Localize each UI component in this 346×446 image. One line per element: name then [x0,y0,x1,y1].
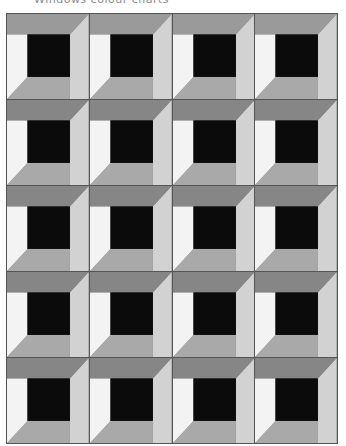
center-square [276,378,319,421]
colour-tile [90,14,172,99]
center-square [193,378,236,421]
colour-tile [7,186,89,271]
chart-title: Windows colour charts [34,0,169,6]
colour-tile [90,272,172,357]
center-square [193,120,236,162]
center-square [193,206,236,249]
center-square [193,34,236,77]
center-square [27,206,70,249]
colour-tile [90,358,172,443]
colour-tile [173,14,255,99]
center-square [276,206,319,249]
colour-tile [173,272,255,357]
center-square [110,378,153,421]
center-square [110,120,153,162]
colour-tile [90,186,172,271]
colour-tile [173,186,255,271]
center-square [276,34,319,77]
center-square [27,378,70,421]
colour-chart-grid [6,13,338,444]
center-square [110,292,153,335]
center-square [110,34,153,77]
center-square [276,120,319,162]
colour-tile [7,272,89,357]
colour-tile [255,272,337,357]
colour-tile [7,100,89,185]
colour-tile [255,100,337,185]
center-square [110,206,153,249]
center-square [193,292,236,335]
center-square [276,292,319,335]
center-square [27,34,70,77]
colour-tile [7,358,89,443]
colour-tile [90,100,172,185]
center-square [27,292,70,335]
colour-tile [255,358,337,443]
colour-tile [255,14,337,99]
colour-tile [255,186,337,271]
colour-tile [7,14,89,99]
colour-tile [173,100,255,185]
colour-tile [173,358,255,443]
center-square [27,120,70,162]
